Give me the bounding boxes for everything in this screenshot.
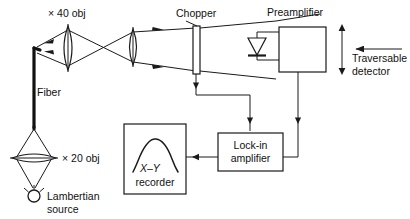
det-ray-1 bbox=[200, 21, 276, 28]
preamplifier-box bbox=[279, 27, 326, 72]
optical-setup-diagram: Lock-in amplifier X–Y recorder bbox=[0, 0, 410, 219]
source-ray-left bbox=[24, 188, 29, 192]
beam-ray-3 bbox=[68, 30, 133, 62]
lower-cone-ray-4 bbox=[35, 158, 52, 188]
lock-in-label-line1: Lock-in bbox=[234, 139, 268, 151]
label-obj40: × 40 obj bbox=[48, 7, 86, 19]
traverse-arrow-down bbox=[339, 68, 346, 75]
beam-ray-6 bbox=[133, 62, 196, 71]
label-traversable-line2: detector bbox=[352, 65, 390, 77]
source-ray-right bbox=[40, 188, 45, 192]
chopper-to-detector-beam bbox=[200, 21, 276, 79]
lower-optics bbox=[10, 129, 58, 188]
fiber-tip-upper bbox=[34, 48, 40, 50]
traverse-arrow-up bbox=[339, 24, 346, 31]
det-ray-2 bbox=[200, 71, 276, 79]
label-lambertian-line2: source bbox=[47, 203, 79, 215]
beam-arrow-back-1 bbox=[44, 39, 54, 44]
preamp-out-arrow bbox=[295, 118, 301, 125]
label-chopper: Chopper bbox=[176, 7, 217, 19]
photodiode bbox=[248, 32, 279, 60]
lower-cone-ray-3 bbox=[16, 158, 33, 188]
label-fiber: Fiber bbox=[37, 86, 61, 98]
chopper-ref-arrow-1 bbox=[193, 83, 199, 90]
recorder-input-arrow bbox=[192, 154, 199, 160]
chopper-ref-arrow-2 bbox=[247, 118, 253, 125]
chopper-reference-wiring bbox=[193, 74, 253, 131]
xy-recorder: X–Y recorder bbox=[124, 124, 186, 194]
preamp-output-wiring bbox=[283, 72, 301, 157]
lock-in-amplifier: Lock-in amplifier bbox=[218, 133, 283, 171]
label-obj20: × 20 obj bbox=[62, 152, 100, 164]
chopper-blade bbox=[193, 26, 200, 74]
beam-ray-5 bbox=[133, 28, 196, 32]
preamp-out-wire bbox=[283, 72, 298, 157]
label-preamplifier: Preamplifier bbox=[267, 6, 324, 18]
lambertian-source bbox=[24, 185, 44, 202]
recorder-label-line2: recorder bbox=[135, 176, 175, 188]
beam-ray-2 bbox=[37, 53, 68, 66]
upper-beam-path bbox=[37, 27, 196, 71]
preamplifier bbox=[276, 14, 326, 72]
lock-in-label-line2: amplifier bbox=[231, 152, 271, 164]
lockin-to-recorder-wiring bbox=[186, 154, 218, 160]
source-circle bbox=[28, 190, 40, 202]
beam-ray-4 bbox=[68, 32, 133, 66]
chopper-leader bbox=[186, 21, 197, 26]
diode-triangle bbox=[248, 38, 266, 55]
label-lambertian-line1: Lambertian bbox=[47, 190, 100, 202]
beam-arrow-back-2 bbox=[44, 50, 54, 55]
beam-ray-1 bbox=[37, 30, 68, 47]
label-traversable-line1: Traversable bbox=[352, 52, 407, 64]
schematic-canvas: Lock-in amplifier X–Y recorder bbox=[0, 0, 410, 219]
recorder-axis-label: X–Y bbox=[139, 162, 161, 174]
chopper-ref-wire bbox=[196, 74, 250, 131]
